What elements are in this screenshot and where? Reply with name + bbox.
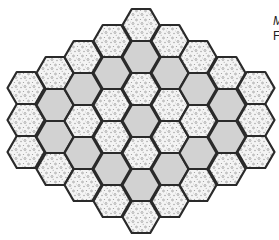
caption-fragment-1: M: [273, 14, 279, 28]
hex-tile-textured: [238, 72, 275, 104]
hex-tiles: [8, 9, 275, 233]
hex-tile-textured: [238, 136, 275, 168]
caption-fragment-2: F: [273, 29, 279, 43]
hex-tile-textured: [238, 104, 275, 136]
hex-grid-diagram: [0, 0, 279, 240]
